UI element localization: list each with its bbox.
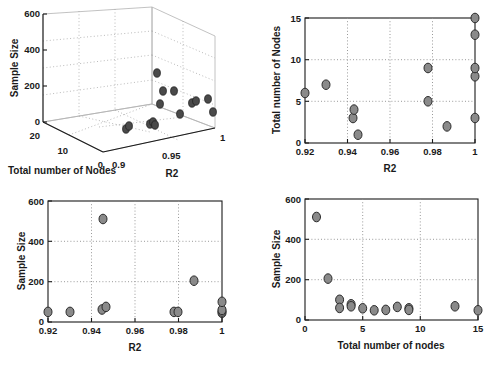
- data-point: [218, 297, 226, 307]
- data-point: [471, 63, 479, 73]
- plot-frame: [305, 199, 478, 320]
- data-point: [393, 302, 401, 312]
- y-tick-10: 10: [57, 145, 68, 156]
- x-tick-15: 15: [473, 323, 484, 334]
- data-point: [157, 100, 164, 108]
- x-tick-1: 0.94: [82, 325, 101, 336]
- y-tick-15: 15: [290, 13, 301, 24]
- y-tick-20: 20: [29, 130, 40, 141]
- data-point: [350, 105, 358, 115]
- panel-nodes-svg: 0.92 0.94 0.96 0.98 1 0 5 10 15 R2 Total…: [250, 0, 493, 185]
- panel-samplesize-vs-r2: 0.92 0.94 0.96 0.98 1 0 200 400 600 R2 S…: [0, 185, 250, 366]
- data-point: [370, 306, 378, 316]
- x-tick-2: 0.96: [381, 146, 400, 157]
- data-point: [205, 95, 212, 103]
- y-tick-5: 5: [296, 96, 302, 107]
- figure-container: 600 400 200 0 20 10 0 0.9 0.95 1 Sample …: [0, 0, 493, 366]
- panel-3d-svg: 600 400 200 0 20 10 0 0.9 0.95 1 Sample …: [0, 0, 250, 185]
- x-tick-0p95: 0.95: [162, 150, 181, 161]
- data-point: [99, 214, 107, 224]
- x-tick-1: 1: [220, 132, 226, 143]
- data-point: [424, 63, 432, 73]
- axis-ticks: [305, 199, 478, 320]
- data-point: [44, 307, 52, 317]
- panel-3d-scatter: 600 400 200 0 20 10 0 0.9 0.95 1 Sample …: [0, 0, 250, 185]
- x-tick-5: 5: [360, 323, 366, 334]
- data-point: [359, 304, 367, 314]
- z-tick-600: 600: [24, 8, 40, 19]
- panel-ss-r2-svg: 0.92 0.94 0.96 0.98 1 0 200 400 600 R2 S…: [0, 185, 250, 366]
- data-point: [471, 113, 479, 123]
- x-axis-title: R2: [129, 342, 142, 353]
- data-point: [160, 87, 167, 95]
- x-tick-3: 0.98: [423, 146, 442, 157]
- data-point: [382, 305, 390, 315]
- panel-samplesize-vs-nodes: 0 5 10 15 0 200 400 600 Total number of …: [250, 185, 493, 366]
- z-tick-0: 0: [35, 116, 40, 127]
- data-point: [126, 122, 133, 130]
- data-point: [443, 122, 451, 132]
- x-tick-4: 1: [472, 146, 478, 157]
- x-axis-title: Total number of nodes: [337, 340, 444, 351]
- data-point: [210, 108, 217, 116]
- y-tick-400: 400: [285, 234, 301, 245]
- data-point: [405, 305, 413, 315]
- gridlines: [305, 199, 478, 320]
- data-point: [474, 306, 482, 316]
- data-point: [66, 307, 74, 317]
- data-point: [471, 30, 479, 40]
- data-point: [190, 276, 198, 286]
- y-tick-200: 200: [28, 276, 44, 287]
- data-point: [451, 302, 459, 312]
- data-point: [471, 13, 479, 23]
- z-tick-200: 200: [24, 80, 40, 91]
- x-axis-title: R2: [384, 163, 397, 174]
- data-point: [154, 69, 161, 77]
- gridlines: [48, 201, 222, 322]
- x-axis-title: R2: [166, 168, 179, 179]
- y-tick-600: 600: [285, 194, 301, 205]
- x-tick-3: 0.98: [169, 325, 188, 336]
- data-point: [193, 97, 200, 105]
- panel-ss-nodes-svg: 0 5 10 15 0 200 400 600 Total number of …: [250, 185, 493, 366]
- y-tick-400: 400: [28, 236, 44, 247]
- data-point: [354, 130, 362, 140]
- panel-nodes-vs-r2: 0.92 0.94 0.96 0.98 1 0 5 10 15 R2 Total…: [250, 0, 493, 185]
- x-tick-2: 0.96: [126, 325, 145, 336]
- data-point: [322, 80, 330, 90]
- z-tick-400: 400: [24, 44, 40, 55]
- data-point: [177, 110, 184, 118]
- y-tick-0: 0: [296, 314, 301, 325]
- data-point: [301, 88, 309, 98]
- y-axis-title: Sample Size: [16, 231, 27, 290]
- y-tick-200: 200: [285, 274, 301, 285]
- data-point: [424, 97, 432, 107]
- data-point: [174, 307, 182, 317]
- scatter-markers: [313, 212, 483, 315]
- data-point: [324, 274, 332, 284]
- y-axis-title: Total number of Nodes: [271, 25, 282, 134]
- x-tick-4: 1: [219, 325, 225, 336]
- y-tick-600: 600: [28, 196, 44, 207]
- y-tick-10: 10: [290, 54, 301, 65]
- data-point: [152, 121, 159, 129]
- y-tick-0: 0: [296, 137, 301, 148]
- z-axis-title: Sample Size: [9, 38, 20, 97]
- pane-grid-left: [43, 9, 152, 116]
- y-tick-0: 0: [39, 316, 44, 327]
- y-axis-title: Sample Size: [271, 229, 282, 288]
- data-point: [336, 303, 344, 313]
- data-point: [171, 87, 178, 95]
- x-tick-1: 0.94: [338, 146, 357, 157]
- y-axis-title: Total number of Nodes: [8, 165, 117, 176]
- x-tick-0: 0: [302, 323, 307, 334]
- data-point: [347, 302, 355, 312]
- data-point: [313, 212, 321, 222]
- x-tick-10: 10: [415, 323, 426, 334]
- data-point: [102, 302, 110, 312]
